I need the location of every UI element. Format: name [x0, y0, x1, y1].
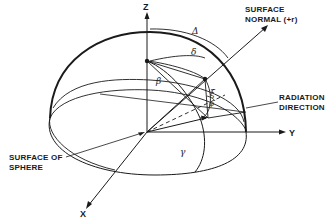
y-axis-arrow: [279, 130, 286, 135]
x-axis-label: X: [80, 209, 86, 219]
hemisphere-diagram: Z Y X SURFACE NORMAL (+r) RADIATION DIRE…: [0, 0, 332, 224]
xi-label: ξ: [210, 88, 216, 98]
latitude-circle-upper: [53, 79, 244, 122]
gamma-label: γ: [180, 147, 186, 157]
surface-normal-label-1: SURFACE: [245, 5, 285, 14]
line-origin-to-surface: [147, 79, 205, 132]
line-pole-to-lower: [147, 61, 208, 118]
sphere-label-1: SURFACE OF: [9, 153, 63, 162]
sphere-leader: [66, 133, 142, 157]
delta-arc-inner: [150, 56, 205, 61]
x-axis: [88, 132, 147, 206]
radiation-label-1: RADIATION: [279, 93, 325, 102]
radiation-leader: [246, 102, 278, 108]
z-axis-label: Z: [143, 2, 149, 12]
z-axis-arrow: [145, 12, 150, 19]
delta-label: δ: [191, 47, 196, 57]
surface-normal-label-2: NORMAL (+r): [245, 15, 298, 24]
equator-ellipse: [49, 118, 246, 175]
Delta-label: Δ: [191, 26, 199, 36]
sphere-label-2: SPHERE: [9, 163, 44, 172]
radiation-label-2: DIRECTION: [279, 103, 325, 112]
y-axis-label: Y: [289, 128, 295, 138]
beta-label: β: [155, 76, 161, 86]
phi-label: φ: [209, 100, 214, 108]
radiation-direction-line: [147, 118, 206, 132]
latitude-circle-lower: [50, 90, 246, 130]
radiation-extension: [208, 112, 246, 118]
